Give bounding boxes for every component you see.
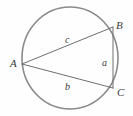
triangle-side-c-segment-AB bbox=[22, 27, 113, 64]
vertex-label-a: A bbox=[10, 58, 17, 69]
diagram-canvas bbox=[0, 0, 133, 116]
vertex-label-c: C bbox=[117, 87, 124, 98]
side-label-c: c bbox=[65, 35, 69, 45]
vertex-label-b: B bbox=[116, 20, 123, 31]
geometry-figure: A B C a b c bbox=[0, 0, 133, 116]
side-label-b: b bbox=[65, 82, 70, 92]
side-label-a: a bbox=[102, 58, 107, 68]
